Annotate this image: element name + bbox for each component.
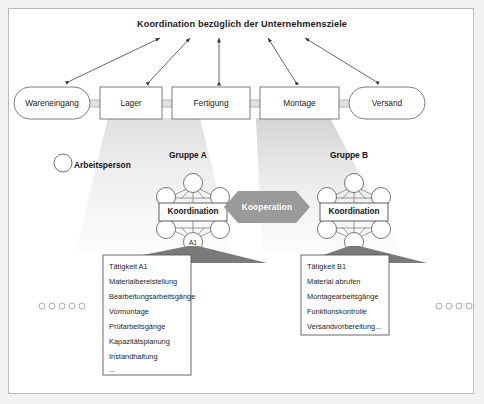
node-b-right-lower: [372, 220, 391, 239]
task-b-item-3: Funktionskontrolle: [307, 307, 367, 316]
task-a-item-1: Materialbereistellung: [109, 277, 177, 286]
chain-step-fertigung: Fertigung: [172, 98, 250, 108]
task-a-item-2: Bearbeitungsarbeitsgänge: [109, 292, 195, 301]
task-a-item-5: Kapazitätsplanung: [109, 337, 170, 346]
task-a-item-0: Tätigkeit A1: [109, 262, 148, 271]
group-a-title: Gruppe A: [169, 150, 207, 160]
chain-step-wareneingang: Wareneingang: [14, 98, 90, 108]
task-a-item-7: ...: [109, 365, 115, 374]
figure-title: Koordination bezüglich der Unternehmensz…: [137, 19, 347, 29]
coordination-arrows: [70, 38, 375, 81]
task-a-item-3: Vormontage: [109, 307, 149, 316]
task-b-item-0: Tätigkeit B1: [307, 262, 346, 271]
node-a-left-lower: [157, 220, 176, 239]
right-side-markers: [436, 303, 472, 309]
funnel-shadow-group-a: [76, 118, 232, 250]
task-b-item-1: Material abrufen: [307, 277, 360, 286]
task-a-item-4: Prüfarbeitsgänge: [109, 322, 165, 331]
group-b-title: Gruppe B: [330, 150, 368, 160]
chain-step-lager: Lager: [100, 98, 162, 108]
task-a-item-6: Instandhaltung: [109, 352, 158, 361]
chain-step-montage: Montage: [260, 98, 339, 108]
node-a-right-lower: [211, 220, 230, 239]
figure-canvas: Koordination bezüglich der Unternehmensz…: [0, 0, 484, 404]
node-a-top: [184, 174, 203, 193]
group-b-coordination-label: Koordination: [320, 207, 388, 216]
legend-label: Arbeitsperson: [74, 160, 131, 170]
node-b-left-lower: [318, 220, 337, 239]
left-side-markers: [39, 303, 85, 309]
task-b-item-4: Versandvorbereitung...: [307, 322, 381, 331]
diagram-artwork: [0, 0, 484, 404]
chain-step-versand: Versand: [349, 98, 425, 108]
legend-person-icon: [54, 154, 72, 172]
cooperation-label: Kooperation: [224, 203, 310, 212]
group-a-coordination-label: Koordination: [159, 207, 227, 216]
node-a1-label: A1: [185, 239, 201, 246]
node-b-top: [345, 174, 364, 193]
task-b-item-2: Montagearbeitsgänge: [307, 292, 379, 301]
